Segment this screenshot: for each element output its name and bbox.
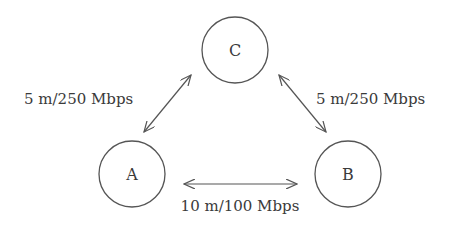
node-a: A [99, 141, 165, 207]
edge-c-b-label: 5 m/250 Mbps [316, 90, 425, 108]
node-c: C [202, 17, 268, 83]
edge-a-b-label: 10 m/100 Mbps [181, 197, 300, 215]
edge-c-b: 5 m/250 Mbps [279, 75, 425, 132]
network-diagram: C A B 5 m/250 Mbps 5 m/250 Mbps 10 m/100… [0, 0, 465, 237]
edge-a-c-label: 5 m/250 Mbps [24, 90, 133, 108]
node-a-label: A [125, 165, 138, 184]
diagram-svg: C A B 5 m/250 Mbps 5 m/250 Mbps 10 m/100… [0, 0, 465, 237]
edge-a-c: 5 m/250 Mbps [24, 75, 191, 132]
node-b: B [315, 141, 381, 207]
edge-a-b: 10 m/100 Mbps [181, 184, 300, 215]
bidirectional-arrow-icon [144, 75, 191, 132]
node-c-label: C [229, 41, 241, 60]
node-b-label: B [342, 165, 354, 184]
